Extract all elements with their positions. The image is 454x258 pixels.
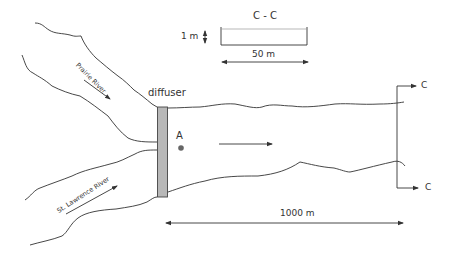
main-channel-upper-bank	[168, 102, 404, 108]
cross-section-outline	[221, 27, 307, 45]
cross-section-title: C - C	[253, 11, 277, 21]
diagram-canvas: diffuser A 1000 m C C C - C 1 m 50 m Pra…	[0, 0, 454, 258]
distance-label: 1000 m	[280, 209, 315, 218]
depth-label: 1 m	[181, 32, 198, 41]
main-channel-lower-bank	[168, 161, 405, 192]
st-lawrence-lower-bank	[30, 197, 157, 245]
diffuser-bar	[158, 107, 168, 197]
diffuser-label: diffuser	[148, 88, 186, 98]
prairie-river-upper-bank	[35, 23, 157, 107]
section-top-label: C	[421, 81, 427, 90]
section-bottom-label: C	[425, 183, 431, 192]
width-label: 50 m	[252, 50, 275, 59]
point-a-dot	[178, 145, 184, 151]
diagram-drawing	[0, 0, 454, 258]
point-a-label: A	[176, 131, 183, 141]
prairie-river-lower-bank	[22, 55, 157, 142]
